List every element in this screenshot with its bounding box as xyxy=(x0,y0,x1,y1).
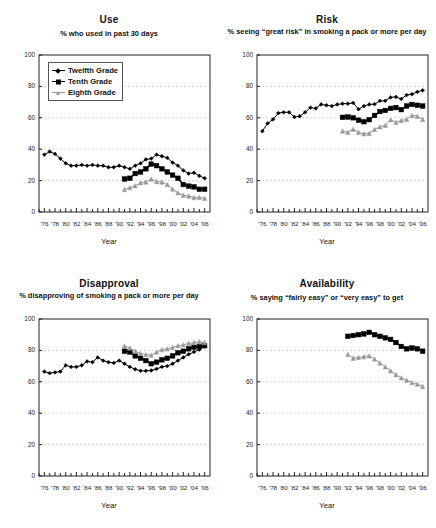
x-axis-tick-label: '06 xyxy=(197,484,213,491)
data-point xyxy=(410,102,415,107)
y-axis-label: 100 xyxy=(19,315,35,322)
data-point xyxy=(399,344,404,349)
data-point xyxy=(197,344,202,349)
data-point xyxy=(410,92,414,96)
y-axis-label: 20 xyxy=(19,177,35,184)
data-point xyxy=(112,361,116,365)
data-point xyxy=(420,349,425,354)
y-axis-label: 100 xyxy=(237,315,253,322)
legend-label: Eighth Grade xyxy=(68,88,116,97)
data-point xyxy=(378,334,383,339)
plot-area-use: 020406080100'76'78'80'82'84'86'88'90'92'… xyxy=(0,0,218,264)
data-point xyxy=(367,117,372,122)
data-point xyxy=(154,360,159,365)
series-tenth-grade xyxy=(340,102,425,124)
data-point xyxy=(133,171,138,176)
data-point xyxy=(186,184,191,189)
data-point xyxy=(107,360,111,364)
legend: Twelfth GradeTenth GradeEighth Grade xyxy=(48,62,123,101)
panel-availability: Availability % saying “fairly easy” or “… xyxy=(218,264,436,528)
y-axis-label: 60 xyxy=(19,378,35,385)
data-point xyxy=(404,347,409,352)
panel-disapproval: Disapproval % disapproving of smoking a … xyxy=(0,264,218,528)
data-point xyxy=(202,187,207,192)
data-point xyxy=(144,369,148,373)
data-point xyxy=(165,170,170,175)
data-point xyxy=(154,163,159,168)
data-point xyxy=(138,170,143,175)
data-point xyxy=(138,356,143,361)
data-point xyxy=(372,127,376,131)
plot-frame xyxy=(257,55,428,212)
data-point xyxy=(160,167,165,172)
y-axis-label: 80 xyxy=(19,82,35,89)
legend-item-twelfth: Twelfth Grade xyxy=(52,65,118,76)
data-point xyxy=(160,365,164,369)
data-point xyxy=(415,347,420,352)
legend-swatch-square-icon xyxy=(52,81,65,82)
data-point xyxy=(112,165,116,169)
y-axis-label: 40 xyxy=(19,409,35,416)
data-point xyxy=(420,384,424,388)
data-point xyxy=(155,367,159,371)
y-axis-label: 60 xyxy=(237,114,253,121)
data-point xyxy=(383,108,388,113)
y-axis-label: 40 xyxy=(237,145,253,152)
data-point xyxy=(80,163,84,167)
data-point xyxy=(133,349,137,353)
y-axis-label: 20 xyxy=(19,441,35,448)
data-point xyxy=(133,354,138,359)
data-point xyxy=(42,370,46,374)
x-axis-title: Year xyxy=(218,501,436,510)
x-axis-title: Year xyxy=(218,237,436,246)
plot-area-risk: 020406080100'76'78'80'82'84'86'88'90'92'… xyxy=(218,0,436,264)
data-point xyxy=(404,104,409,109)
series-twelfth-grade xyxy=(42,150,206,180)
data-point xyxy=(48,371,52,375)
data-point xyxy=(346,115,351,120)
y-axis-label: 80 xyxy=(19,346,35,353)
data-point xyxy=(421,88,425,92)
data-point xyxy=(394,340,399,345)
y-axis-label: 0 xyxy=(237,472,253,479)
data-point xyxy=(128,176,133,181)
data-point xyxy=(367,330,372,335)
data-point xyxy=(420,117,424,121)
data-point xyxy=(85,164,89,168)
data-point xyxy=(181,182,186,187)
data-point xyxy=(101,164,105,168)
x-axis-tick-label: '06 xyxy=(415,220,431,227)
panel-use: Use % who used in past 30 days 020406080… xyxy=(0,0,218,264)
data-point xyxy=(122,349,127,354)
data-point xyxy=(128,346,132,350)
data-point xyxy=(149,162,154,167)
data-point xyxy=(362,332,367,337)
legend-label: Tenth Grade xyxy=(68,77,112,86)
data-point xyxy=(192,345,197,350)
data-point xyxy=(325,103,329,107)
y-axis-label: 40 xyxy=(237,409,253,416)
y-axis-label: 0 xyxy=(19,208,35,215)
data-point xyxy=(144,167,149,172)
data-point xyxy=(122,344,126,348)
data-point xyxy=(415,90,419,94)
data-point xyxy=(372,357,376,361)
data-point xyxy=(335,103,339,107)
legend-label: Twelfth Grade xyxy=(68,66,118,75)
data-point xyxy=(356,332,361,337)
chart-grid: Use % who used in past 30 days 020406080… xyxy=(0,0,436,528)
data-point xyxy=(53,370,57,374)
data-point xyxy=(69,164,73,168)
data-point xyxy=(75,164,79,168)
data-point xyxy=(197,187,202,192)
y-axis-label: 60 xyxy=(19,114,35,121)
legend-swatch-diamond-icon xyxy=(52,70,65,71)
y-axis-label: 60 xyxy=(237,378,253,385)
data-point xyxy=(107,165,111,169)
data-point xyxy=(372,332,377,337)
data-point xyxy=(91,163,95,167)
data-point xyxy=(203,176,207,180)
data-point xyxy=(356,118,361,123)
y-axis-label: 80 xyxy=(237,82,253,89)
data-point xyxy=(404,378,408,382)
